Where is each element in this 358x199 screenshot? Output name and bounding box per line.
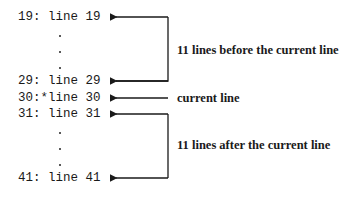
label-before: 11 lines before the current line bbox=[177, 43, 339, 57]
bracket-before-bottom bbox=[116, 17, 168, 81]
label-current: current line bbox=[177, 91, 240, 105]
label-after: 11 lines after the current line bbox=[177, 138, 330, 152]
